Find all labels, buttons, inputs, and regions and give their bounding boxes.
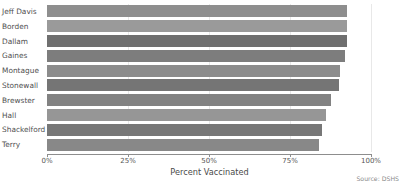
x-axis-tick-label: 0% [41,157,52,166]
bar[interactable] [47,35,347,47]
y-axis-tick-label: Jeff Davis [0,7,44,16]
x-axis-title: Percent Vaccinated [47,167,372,177]
y-axis-tick-label: Gaines [0,51,44,60]
y-axis-tick-label: Hall [0,111,44,120]
x-axis-tick-label: 100% [361,157,381,166]
bar-row[interactable] [47,50,371,62]
bar-chart: Jeff DavisBordenDallamGainesMontagueSton… [0,0,403,190]
bar-row[interactable] [47,124,371,136]
bar[interactable] [47,20,347,32]
bar[interactable] [47,124,322,136]
chart-title [0,0,403,1]
bar[interactable] [47,65,340,77]
bar-row[interactable] [47,109,371,121]
y-axis-tick-label: Shackelford [0,125,44,134]
y-axis-tick-label: Borden [0,22,44,31]
plot-area [47,4,371,152]
y-axis-labels: Jeff DavisBordenDallamGainesMontagueSton… [0,4,44,152]
bar-row[interactable] [47,35,371,47]
x-axis-tick-label: 50% [201,157,217,166]
y-axis-tick-label: Stonewall [0,81,44,90]
bar-row[interactable] [47,65,371,77]
bar[interactable] [47,94,331,106]
y-axis-tick-label: Brewster [0,96,44,105]
bar-row[interactable] [47,20,371,32]
gridline-100pct [371,4,372,152]
y-axis-tick-label: Montague [0,66,44,75]
y-axis-tick-label: Dallam [0,37,44,46]
bar[interactable] [47,79,339,91]
x-axis-tick-label: 75% [282,157,298,166]
bar-row[interactable] [47,94,371,106]
bar-row[interactable] [47,79,371,91]
bar[interactable] [47,139,319,151]
y-axis-tick-label: Terry [0,140,44,149]
source-note: Source: DSHS [356,175,399,183]
x-axis-tick-label: 25% [120,157,136,166]
bar[interactable] [47,109,326,121]
bar[interactable] [47,50,345,62]
bar[interactable] [47,5,347,17]
bar-row[interactable] [47,5,371,17]
bar-row[interactable] [47,139,371,151]
